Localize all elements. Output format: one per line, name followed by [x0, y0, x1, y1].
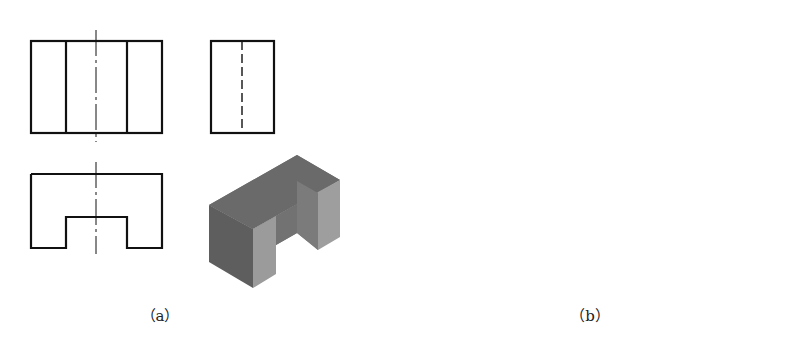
drawing-canvas: [0, 0, 795, 338]
panel-a: [31, 30, 340, 288]
caption-b: （b）: [570, 304, 610, 325]
caption-a: （a）: [141, 304, 180, 325]
isometric-view-a: [209, 155, 340, 288]
